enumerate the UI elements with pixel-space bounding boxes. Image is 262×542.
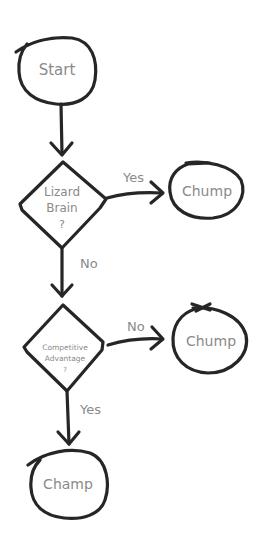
chump-label-2: Chump [186, 333, 236, 349]
chump-node-1: Chump [170, 162, 243, 218]
competitive-advantage-decision: Competitive Advantage ? [24, 305, 103, 391]
chump-label-1: Chump [182, 183, 232, 199]
edge-competitive-yes: Yes [58, 391, 101, 444]
champ-label: Champ [43, 476, 93, 492]
yes-label-2: Yes [79, 402, 101, 417]
edge-lizard-no: No [52, 248, 98, 296]
start-node: Start [16, 38, 96, 105]
flowchart-canvas: Start Lizard Brain ? Yes Chump No Compet… [0, 0, 262, 542]
edge-start-to-lizard [51, 104, 72, 155]
chump-node-2: Chump [173, 304, 247, 373]
lizard-brain-decision: Lizard Brain ? [20, 162, 106, 248]
edge-lizard-yes: Yes [107, 170, 163, 203]
competitive-line2: Advantage [45, 354, 86, 363]
no-label-2: No [127, 319, 145, 334]
lizard-line2: Brain [46, 201, 77, 215]
start-label: Start [39, 61, 76, 79]
yes-label-1: Yes [122, 170, 144, 185]
no-label-1: No [80, 256, 98, 271]
champ-node: Champ [28, 450, 107, 518]
lizard-line3: ? [59, 218, 65, 231]
lizard-line1: Lizard [44, 185, 80, 199]
edge-competitive-no: No [108, 319, 163, 349]
competitive-line3: ? [63, 366, 67, 374]
competitive-line1: Competitive [42, 343, 88, 352]
